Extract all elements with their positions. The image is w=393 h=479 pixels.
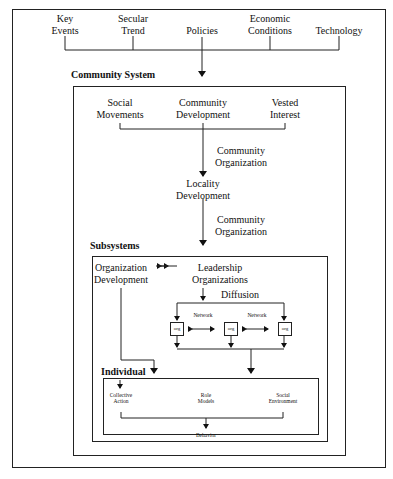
network-label-1: Network	[193, 312, 212, 318]
label: Key	[51, 13, 78, 25]
label: Development	[176, 109, 230, 121]
vested-interest: Vested Interest	[270, 97, 300, 120]
org-box-1: org	[174, 326, 181, 332]
label: Technology	[315, 25, 362, 37]
subsystems-title: Subsystems	[90, 240, 139, 252]
label: Models	[198, 398, 215, 404]
role-models: Role Models	[198, 392, 215, 405]
label: Development	[176, 190, 230, 202]
label: Leadership	[192, 262, 248, 274]
diagram-lines	[0, 0, 393, 479]
label: Trend	[118, 25, 148, 37]
label: Community	[215, 145, 267, 157]
label: Conditions	[248, 25, 292, 37]
factor-secular-trend: Secular Trend	[118, 13, 148, 36]
individual-title: Individual	[101, 366, 145, 378]
diffusion-label: Diffusion	[221, 289, 259, 301]
label: Interest	[270, 109, 300, 121]
individual-box	[104, 379, 319, 435]
factor-key-events: Key Events	[51, 13, 78, 36]
label: Organizations	[192, 274, 248, 286]
label: Secular	[118, 13, 148, 25]
edge-label-community-organization-1: Community Organization	[215, 145, 267, 168]
locality-development: Locality Development	[176, 178, 230, 201]
factor-policies: Policies	[186, 25, 218, 37]
organization-development: Organization Development	[94, 262, 148, 285]
factor-technology: Technology	[315, 25, 362, 37]
factor-economic-conditions: Economic Conditions	[248, 13, 292, 36]
label: Locality	[176, 178, 230, 190]
leadership-organizations: Leadership Organizations	[192, 262, 248, 285]
social-environment: Social Environment	[269, 392, 298, 405]
network-label-2: Network	[247, 312, 266, 318]
social-movements: Social Movements	[96, 97, 143, 120]
label: Organization	[94, 262, 148, 274]
community-system-title: Community System	[71, 69, 155, 81]
label: Organization	[215, 157, 267, 169]
label: Vested	[270, 97, 300, 109]
collective-action: Collective Action	[110, 392, 133, 405]
behavior: Behavior	[196, 432, 216, 438]
community-development: Community Development	[176, 97, 230, 120]
label: Social	[96, 97, 143, 109]
label: Organization	[215, 226, 267, 238]
label: Development	[94, 274, 148, 286]
label: Events	[51, 25, 78, 37]
label: Movements	[96, 109, 143, 121]
org-box-3: org	[282, 326, 289, 332]
org-box-2: org	[228, 326, 235, 332]
label: Policies	[186, 25, 218, 37]
label: Community	[176, 97, 230, 109]
edge-label-community-organization-2: Community Organization	[215, 214, 267, 237]
label: Action	[110, 398, 133, 404]
label: Economic	[248, 13, 292, 25]
label: Community	[215, 214, 267, 226]
label: Environment	[269, 398, 298, 404]
